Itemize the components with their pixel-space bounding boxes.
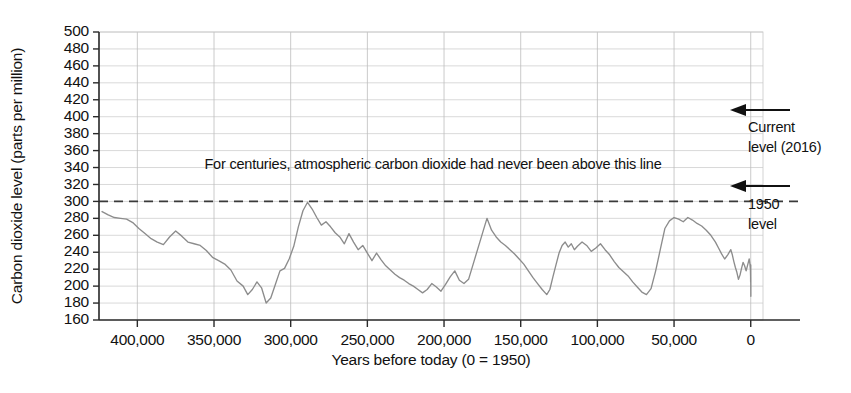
y-axis-tick-labels: 1601802002202402602803003203403603804004…	[64, 22, 90, 327]
y-tick-label: 440	[64, 73, 90, 90]
x-tick-label: 150,000	[494, 331, 549, 348]
chart-canvas: 1601802002202402602803003203403603804004…	[0, 0, 851, 393]
y-tick-label: 480	[64, 39, 90, 56]
x-tick-label: 400,000	[110, 331, 165, 348]
y-tick-label: 180	[64, 293, 90, 310]
y-tick-label: 200	[64, 276, 90, 293]
nineteen-fifty-label-line2: level	[748, 216, 777, 232]
x-tick-label: 100,000	[570, 331, 625, 348]
y-tick-label: 320	[64, 175, 90, 192]
x-tick-label: 50,000	[651, 331, 697, 348]
current-level-label-line2: level (2016)	[748, 139, 821, 155]
y-tick-label: 500	[64, 22, 90, 39]
y-tick-label: 240	[64, 242, 90, 259]
y-tick-label: 220	[64, 259, 90, 276]
y-tick-label: 460	[64, 56, 90, 73]
y-tick-label: 420	[64, 90, 90, 107]
x-axis-tick-labels: 400,000350,000300,000250,000200,000150,0…	[110, 331, 755, 348]
x-tick-label: 350,000	[187, 331, 242, 348]
nineteen-fifty-label-line1: 1950	[748, 196, 780, 212]
y-tick-label: 300	[64, 192, 90, 209]
y-tick-label: 260	[64, 225, 90, 242]
co2-ice-core-chart: 1601802002202402602803003203403603804004…	[0, 0, 851, 393]
y-tick-label: 360	[64, 141, 90, 158]
x-tick-label: 300,000	[264, 331, 319, 348]
y-tick-label: 280	[64, 208, 90, 225]
current-level-label-line1: Current	[748, 119, 795, 135]
x-tick-label: 250,000	[340, 331, 395, 348]
x-tick-label: 200,000	[417, 331, 472, 348]
y-axis-title: Carbon dioxide level (parts per million)	[8, 48, 25, 305]
y-tick-label: 400	[64, 107, 90, 124]
y-tick-label: 380	[64, 124, 90, 141]
x-axis-title: Years before today (0 = 1950)	[331, 351, 530, 368]
x-tick-label: 0	[747, 331, 756, 348]
threshold-annotation-text: For centuries, atmospheric carbon dioxid…	[204, 156, 661, 172]
y-tick-label: 340	[64, 158, 90, 175]
y-tick-label: 160	[64, 310, 90, 327]
